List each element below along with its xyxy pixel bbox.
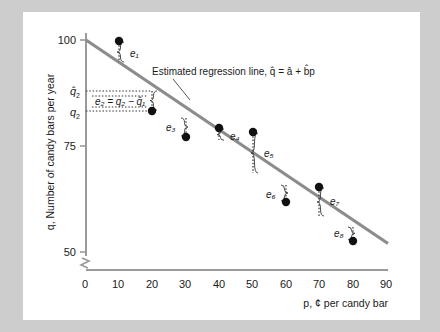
x-axis-ticks: 0 10 20 30 40 50 60 70 80 90: [82, 278, 392, 290]
data-point: [249, 128, 257, 136]
y-tick-label-50: 50: [64, 246, 76, 258]
residual-label-e3: e₃: [166, 122, 176, 133]
x-tick-label-50: 50: [246, 278, 258, 290]
residual-label-e6: e₆: [266, 189, 276, 200]
axis-break-icon: [81, 258, 89, 268]
x-tick-label-80: 80: [347, 278, 359, 290]
regression-scatter-chart: 100 75 50 q̂2 q2 0 10 20 30 40 50 60 70 …: [0, 0, 440, 332]
x-tick-label-0: 0: [82, 278, 88, 290]
data-point: [315, 183, 323, 191]
data-point: [115, 37, 123, 45]
x-tick-label-40: 40: [213, 278, 225, 290]
residual-label-e1: e₁: [130, 48, 139, 59]
residual-label-e7: e₇: [330, 196, 340, 207]
data-point: [282, 198, 290, 206]
callout-leader-line: [173, 79, 190, 100]
data-point: [349, 237, 357, 245]
y-axis-ticks: 100 75 50 q̂2 q2: [58, 34, 86, 258]
regression-line-callout: Estimated regression line, q̂ = â + b̂p: [152, 64, 315, 100]
residual-formula-label: e₂ = q₂ − q̂₁: [95, 96, 145, 107]
x-tick-label-20: 20: [146, 278, 158, 290]
x-tick-label-60: 60: [280, 278, 292, 290]
regression-line-label: Estimated regression line, q̂ = â + b̂p: [152, 64, 315, 77]
x-tick-label-90: 90: [380, 278, 392, 290]
y-tick-label-100: 100: [58, 34, 76, 46]
data-point: [215, 124, 223, 132]
data-point: [148, 107, 156, 115]
x-axis-title: p, ¢ per candy bar: [303, 297, 388, 309]
y-tick-label-q2: q2: [70, 106, 80, 120]
x-tick-label-30: 30: [179, 278, 191, 290]
residual-label-e5: e₅: [264, 148, 274, 159]
x-tick-label-70: 70: [313, 278, 325, 290]
residual-bracket-e7: [317, 188, 324, 216]
residual-label-e4: e₄: [230, 131, 240, 142]
residual-construction-guides: e₂ = q₂ − q̂₁: [86, 91, 157, 111]
y-tick-label-75: 75: [64, 140, 76, 152]
residual-label-e8: e₈: [334, 228, 344, 239]
data-point: [182, 133, 190, 141]
y-axis-title: q, Number of candy bars per year: [44, 73, 56, 230]
y-tick-label-q2-hat: q̂2: [70, 85, 80, 99]
x-tick-label-10: 10: [112, 278, 124, 290]
